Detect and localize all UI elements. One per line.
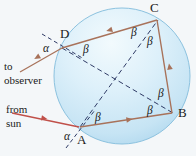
angle-label-beta-at-B-upper: β [158, 88, 164, 100]
to-observer-line-2: observer [4, 75, 42, 86]
angle-label-beta-at-C-right: β [147, 36, 153, 48]
water-droplet-sphere [54, 8, 190, 144]
from-sun-annotation: from sun [6, 104, 27, 129]
angle-label-alpha-at-D: α [43, 43, 49, 55]
vertex-label-A: A [77, 133, 86, 146]
vertex-label-C: C [150, 1, 159, 14]
ray-diagram-figure: D C B A α α β β β β β β to observer from… [0, 0, 196, 156]
angle-label-beta-at-C-left: β [131, 27, 137, 39]
from-sun-line-1: from [6, 104, 27, 115]
angle-label-beta-at-A-inner: β [95, 112, 101, 124]
vertex-label-B: B [178, 106, 187, 119]
to-observer-annotation: to observer [4, 61, 42, 86]
to-observer-line-1: to [4, 61, 42, 72]
angle-label-beta-at-B-lower: β [147, 105, 153, 117]
vertex-label-D: D [60, 27, 69, 40]
angle-label-beta-at-D-inner: β [83, 44, 89, 56]
angle-label-alpha-at-A: α [64, 131, 70, 143]
from-sun-line-2: sun [6, 118, 27, 129]
